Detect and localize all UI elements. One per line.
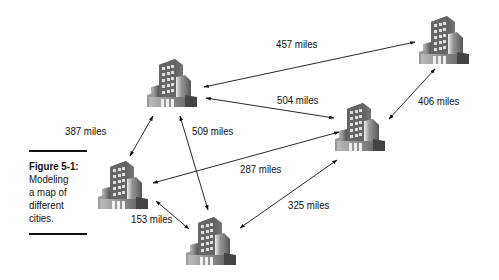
- edge-b-c: [389, 69, 435, 119]
- edge-label-d-c: 287 miles: [240, 163, 281, 175]
- building-icon: [96, 157, 150, 211]
- edge-label-e-c: 325 miles: [288, 199, 329, 211]
- edge-d-c: [153, 132, 339, 183]
- edge-label-a-e: 509 miles: [192, 125, 233, 137]
- building-icon: [145, 55, 199, 109]
- building-icon: [333, 99, 387, 153]
- edge-label-a-d: 387 miles: [65, 125, 106, 137]
- edge-label-b-c: 406 miles: [418, 95, 459, 107]
- edge-label-d-e: 153 miles: [131, 213, 172, 225]
- edge-a-d: [130, 116, 153, 156]
- building-icon: [417, 12, 471, 66]
- building-icon: [184, 213, 238, 267]
- edge-label-a-c: 504 miles: [277, 94, 318, 106]
- edge-label-a-b: 457 miles: [276, 38, 317, 50]
